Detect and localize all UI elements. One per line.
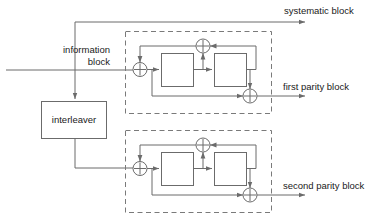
lower-delay-box-1 [162,153,194,186]
upper-d2-to-output-xor [247,70,251,90]
upper-delay-box-2 [215,54,247,87]
upper-input-xor [133,63,147,77]
lower-delay-box-2 [215,153,247,186]
upper-delay-box-1 [162,54,194,87]
diagram-canvas: information block interleaver systematic… [0,0,387,222]
upper-top-xor [196,39,210,53]
second-parity-block-label: second parity block [283,180,364,192]
lower-input-xor [133,162,147,176]
first-parity-block-label: first parity block [283,81,349,93]
information-block-label: information block [6,44,110,67]
information-block-label-line2: block [6,56,110,68]
upper-output-xor [243,89,257,103]
information-block-label-line1: information [6,44,110,56]
systematic-block-label: systematic block [284,5,354,17]
interleaver-label: interleaver [41,114,107,126]
lower-d2-to-output-xor [247,169,251,189]
lower-output-xor [243,188,257,202]
lower-top-xor [196,138,210,152]
interleaver-output-path [75,138,133,168]
